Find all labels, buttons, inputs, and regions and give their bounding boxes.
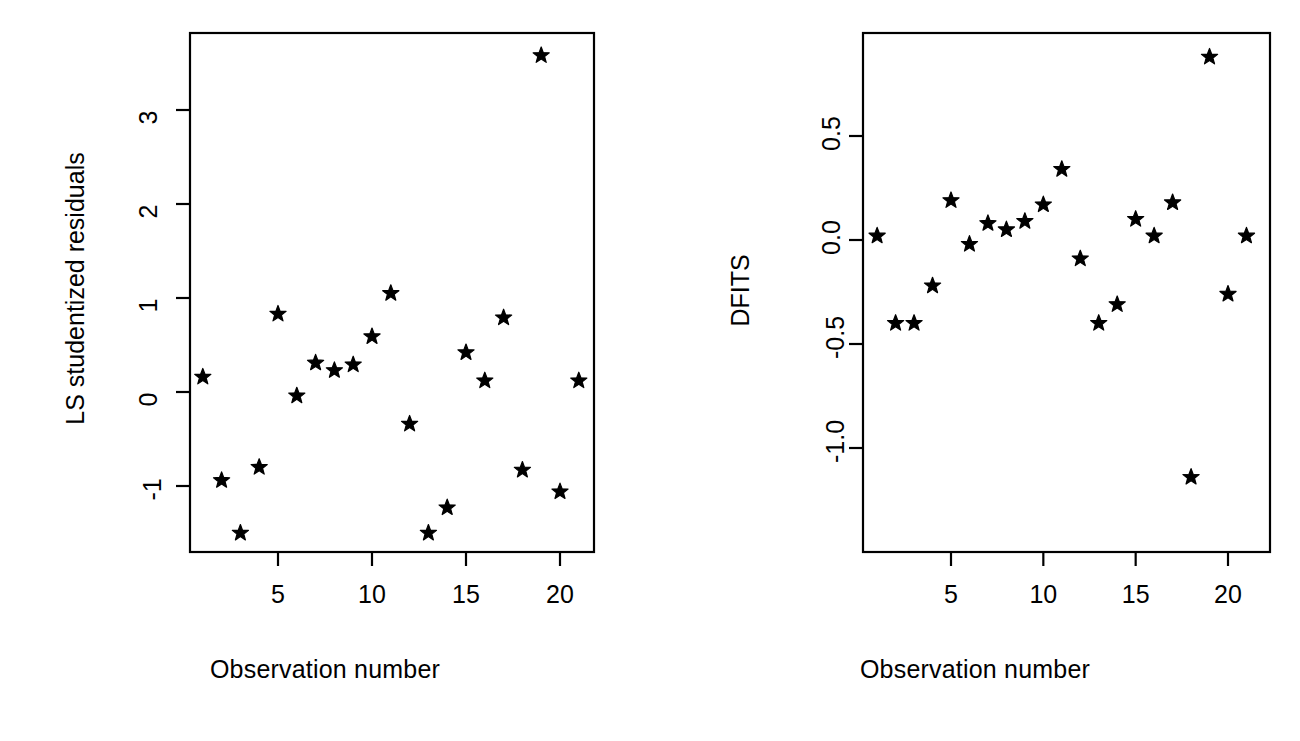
data-point-star-marker [439, 499, 455, 514]
figure-root: Observation number LS studentized residu… [0, 0, 1300, 741]
data-point-star-marker [232, 525, 248, 540]
data-point-star-marker [1017, 213, 1033, 228]
data-point-star-marker [1183, 469, 1199, 484]
x-tick-label: 20 [1214, 580, 1242, 609]
data-points [869, 48, 1255, 484]
data-point-star-marker [402, 415, 418, 430]
data-point-star-marker [1072, 250, 1088, 265]
y-tick-label: -0.5 [821, 316, 850, 359]
y-axis-ticks [849, 136, 863, 448]
plot-frame [863, 33, 1270, 552]
y-tick-label: -1 [138, 479, 167, 501]
data-point-star-marker [1201, 48, 1217, 63]
y-tick-label: -1.0 [821, 420, 850, 463]
data-point-star-marker [552, 483, 568, 498]
data-point-star-marker [496, 309, 512, 324]
data-point-star-marker [345, 356, 361, 371]
data-point-star-marker [1109, 296, 1125, 311]
x-tick-label: 15 [452, 580, 480, 609]
y-tick-label: 2 [134, 205, 163, 219]
data-point-star-marker [1035, 196, 1051, 211]
y-tick-label: 0 [134, 393, 163, 407]
data-point-star-marker [383, 285, 399, 300]
x-tick-label: 15 [1122, 580, 1150, 609]
x-axis-ticks [951, 552, 1228, 566]
scatter-plot-dfits [650, 0, 1300, 741]
data-point-star-marker [1128, 211, 1144, 226]
y-axis-ticks [176, 110, 190, 486]
scatter-plot-ls-studentized-residuals [0, 0, 650, 741]
y-tick-label: 0.0 [817, 220, 846, 255]
data-point-star-marker [533, 47, 549, 62]
data-point-star-marker [961, 236, 977, 251]
y-tick-label: 0.5 [817, 116, 846, 151]
y-tick-label: 3 [134, 111, 163, 125]
data-point-star-marker [420, 525, 436, 540]
data-point-star-marker [270, 305, 286, 320]
panel-ls-studentized-residuals: Observation number LS studentized residu… [0, 0, 650, 741]
data-point-star-marker [924, 277, 940, 292]
data-point-star-marker [888, 315, 904, 330]
data-point-star-marker [458, 344, 474, 359]
x-axis-title: Observation number [650, 655, 1300, 684]
data-point-star-marker [980, 215, 996, 230]
data-point-star-marker [289, 387, 305, 402]
y-axis-title: LS studentized residuals [61, 152, 90, 424]
y-tick-label: 1 [134, 299, 163, 313]
data-point-star-marker [364, 328, 380, 343]
y-axis-title: DFITS [726, 254, 755, 326]
data-point-star-marker [251, 459, 267, 474]
data-point-star-marker [869, 227, 885, 242]
data-point-star-marker [1165, 194, 1181, 209]
data-point-star-marker [1091, 315, 1107, 330]
panel-dfits: Observation number DFITS 5101520-1.0-0.5… [650, 0, 1300, 741]
x-tick-label: 10 [358, 580, 386, 609]
data-point-star-marker [1220, 286, 1236, 301]
data-point-star-marker [943, 192, 959, 207]
data-point-star-marker [571, 372, 587, 387]
x-tick-label: 20 [546, 580, 574, 609]
data-point-star-marker [1146, 227, 1162, 242]
data-point-star-marker [1054, 161, 1070, 176]
x-axis-title: Observation number [0, 655, 650, 684]
data-point-star-marker [514, 462, 530, 477]
data-point-star-marker [998, 221, 1014, 236]
data-point-star-marker [195, 368, 211, 383]
x-axis-ticks [278, 552, 560, 566]
x-tick-label: 5 [271, 580, 285, 609]
data-point-star-marker [326, 362, 342, 377]
data-point-star-marker [906, 315, 922, 330]
data-point-star-marker [1238, 227, 1254, 242]
data-points [195, 47, 587, 540]
data-point-star-marker [308, 354, 324, 369]
x-tick-label: 5 [944, 580, 958, 609]
x-tick-label: 10 [1029, 580, 1057, 609]
data-point-star-marker [214, 472, 230, 487]
data-point-star-marker [477, 372, 493, 387]
